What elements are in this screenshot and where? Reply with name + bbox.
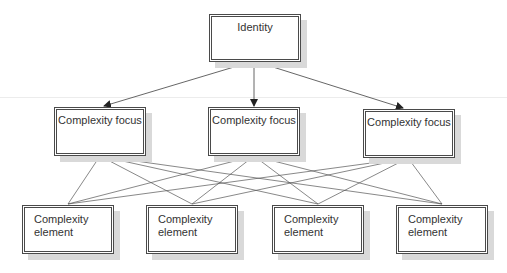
complexity-element-node-2: Complexity element <box>146 205 238 254</box>
complexity-focus-label: Complexity focus <box>366 116 452 129</box>
identity-label: Identity <box>212 21 298 34</box>
complexity-element-node-4: Complexity element <box>396 205 488 254</box>
complexity-element-label: Complexity element <box>158 213 229 239</box>
complexity-focus-label: Complexity focus <box>57 114 143 127</box>
complexity-focus-node-1: Complexity focus <box>54 107 146 156</box>
complexity-element-node-3: Complexity element <box>272 205 364 254</box>
identity-node: Identity <box>209 14 301 62</box>
complexity-focus-node-2: Complexity focus <box>208 107 300 156</box>
focus-element-lines <box>68 156 442 204</box>
complexity-focus-node-3: Complexity focus <box>363 109 455 158</box>
arrow-identity-to-focus-3 <box>254 61 403 108</box>
complexity-element-node-1: Complexity element <box>22 205 114 254</box>
complexity-focus-label: Complexity focus <box>211 114 297 127</box>
arrow-identity-to-focus-1 <box>104 61 254 106</box>
complexity-element-label: Complexity element <box>34 213 105 239</box>
complexity-element-label: Complexity element <box>284 213 355 239</box>
identity-arrows <box>104 61 403 108</box>
hierarchy-diagram: Identity Complexity focus Complexity foc… <box>0 0 507 273</box>
complexity-element-label: Complexity element <box>408 213 479 239</box>
